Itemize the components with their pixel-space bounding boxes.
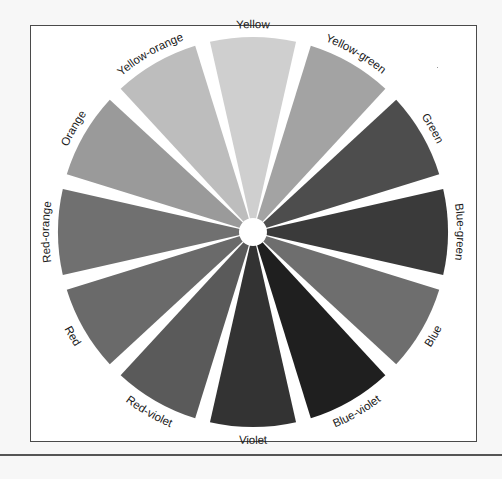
segment-violet: [210, 232, 296, 427]
label-yellow: Yellow: [236, 18, 271, 31]
segment-yellow: [210, 37, 296, 232]
bottom-rule: [0, 454, 502, 456]
color-wheel: YellowYellow-greenGreenBlue-greenBlueBlu…: [0, 0, 502, 479]
label-violet: Violet: [239, 433, 269, 446]
center-hub: [239, 218, 267, 246]
label-red-orange: Red-orange: [39, 200, 53, 263]
label-blue-green: Blue-green: [453, 203, 467, 262]
segment-blue-green: [253, 189, 448, 275]
wheel-segments: [58, 37, 448, 427]
segment-red-orange: [58, 189, 253, 275]
label-blue: Blue: [422, 323, 444, 349]
label-red: Red: [63, 324, 84, 348]
